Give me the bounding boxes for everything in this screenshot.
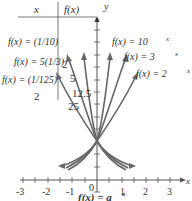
y-axis-label: y [103, 1, 109, 12]
tick-label: -1 [66, 186, 74, 197]
table-cell: 2 [62, 58, 68, 70]
label-10x-exp: x [165, 35, 170, 43]
table-header-fx: f(x) [64, 3, 80, 16]
tick-label: -2 [42, 186, 50, 197]
label-3x-exp: x [174, 50, 179, 58]
table-cell: 12.5 [72, 87, 92, 99]
label-3x: f(x) = 3 [124, 51, 155, 63]
label-2x: f(x) = 2 [136, 68, 167, 80]
label-half-x: f(x) = (1/125) [2, 74, 58, 86]
table-cell: 5 [70, 72, 76, 84]
table-cell: 25 [68, 100, 80, 112]
tick-label: 2 [143, 186, 148, 197]
x-axis-label: x [185, 176, 190, 186]
tick-label: -3 [16, 186, 24, 197]
tick-label: 3 [167, 186, 172, 197]
caption-exp: x [121, 190, 126, 198]
exponential-graph: x f(x) f(x) = 10 x f(x) = 3 x f(x) = 2 x… [0, 0, 192, 201]
table-header-x: x [33, 3, 39, 15]
label-third-x: f(x) = 5(1/3) [14, 56, 65, 68]
label-10x: f(x) = 10 [112, 36, 148, 48]
table-cell: 2 [34, 90, 40, 102]
label-tenth-x: f(x) = (1/10) [8, 36, 59, 48]
label-2x-exp: x [186, 67, 191, 75]
caption: f(x) = a [78, 191, 112, 201]
